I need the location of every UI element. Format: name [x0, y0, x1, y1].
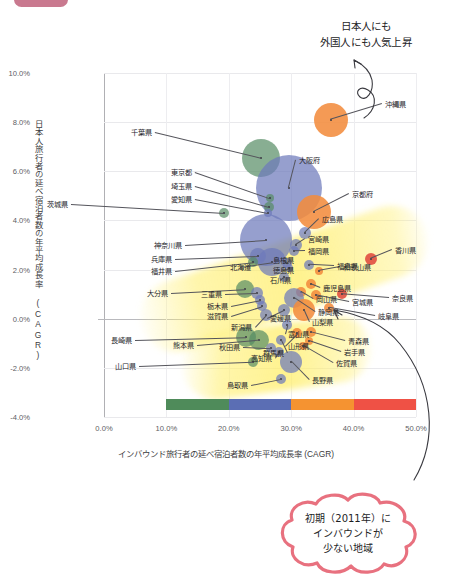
y-tick-label: 6.0% — [0, 167, 30, 176]
x-tick-label: 0.0% — [74, 424, 134, 433]
point-label-鹿児島県: 鹿児島県 — [323, 283, 351, 293]
point-label-北海道: 北海道 — [230, 262, 251, 272]
x-tick-label: 10.0% — [136, 424, 196, 433]
point-label-宮崎県: 宮崎県 — [308, 234, 329, 244]
annotation-cloud-text: 初期（2011年）に インバウンドが 少ない地域 — [272, 490, 424, 576]
bubble-chart-page: 日本人旅行者の延べ宿泊者数の年平均成長率 (CAGR) 10.0%8.0%6.0… — [0, 0, 452, 583]
y-tick-label: -4.0% — [0, 413, 30, 422]
scale-segment-blue — [229, 399, 292, 410]
annotation-top-line2: 外国人にも人気上昇 — [286, 34, 446, 50]
cloud-line-1: 初期（2011年）に — [305, 511, 390, 526]
gridline-horizontal — [104, 122, 416, 123]
point-label-高知県: 高知県 — [251, 353, 272, 363]
x-tick-label: 20.0% — [199, 424, 259, 433]
point-label-長崎県: 長崎県 — [111, 335, 132, 345]
point-label-栃木県: 栃木県 — [207, 301, 228, 311]
leader-line — [294, 250, 305, 251]
gridline-vertical — [229, 73, 230, 417]
point-label-新潟県: 新潟県 — [231, 322, 252, 332]
scale-segment-green — [166, 399, 229, 410]
point-label-滋賀県: 滋賀県 — [207, 311, 228, 321]
point-label-広島県: 広島県 — [322, 214, 343, 224]
point-label-神奈川県: 神奈川県 — [154, 240, 182, 250]
cloud-line-3: 少ない地域 — [323, 541, 373, 556]
corner-badge — [14, 0, 68, 7]
y-tick-label: 2.0% — [0, 265, 30, 274]
point-label-大阪府: 大阪府 — [299, 155, 320, 165]
point-label-秋田県: 秋田県 — [219, 342, 240, 352]
annotation-top-line1: 日本人にも — [341, 20, 391, 32]
point-label-島根県: 島根県 — [273, 255, 294, 265]
leader-line — [231, 306, 262, 317]
point-label-福岡県: 福岡県 — [308, 246, 329, 256]
point-label-京都府: 京都府 — [352, 189, 373, 199]
point-label-愛知県: 愛知県 — [171, 194, 192, 204]
point-label-茨城県: 茨城県 — [47, 199, 68, 209]
point-label-石川県: 石川県 — [270, 275, 291, 285]
y-tick-label: 10.0% — [0, 69, 30, 78]
point-label-千葉県: 千葉県 — [131, 127, 152, 137]
leader-line — [71, 204, 224, 214]
point-label-山口県: 山口県 — [115, 361, 136, 371]
point-label-香川県: 香川県 — [395, 245, 416, 255]
point-label-兵庫県: 兵庫県 — [151, 254, 172, 264]
point-label-奈良県: 奈良県 — [392, 293, 413, 303]
point-label-熊本県: 熊本県 — [173, 340, 194, 350]
leader-line — [139, 362, 253, 367]
point-label-東京都: 東京都 — [171, 167, 192, 177]
annotation-top-note: 日本人にも 外国人にも人気上昇 — [286, 18, 446, 51]
y-tick-label: 4.0% — [0, 216, 30, 225]
annotation-cloud-arrow — [288, 308, 448, 488]
cloud-line-2: インバウンドが — [313, 526, 383, 541]
annotation-top-arrow — [330, 52, 410, 120]
point-label-和歌山県: 和歌山県 — [343, 262, 371, 272]
point-label-宮城県: 宮城県 — [352, 297, 373, 307]
y-tick-label: -2.0% — [0, 363, 30, 372]
point-label-三重県: 三重県 — [201, 289, 222, 299]
point-label-福井県: 福井県 — [151, 266, 172, 276]
point-label-鳥取県: 鳥取県 — [227, 380, 248, 390]
y-axis-title: 日本人旅行者の延べ宿泊者数の年平均成長率 (CAGR) — [26, 120, 42, 361]
point-label-徳島県: 徳島県 — [273, 265, 294, 275]
y-tick-label: 0.0% — [0, 314, 30, 323]
annotation-cloud: 初期（2011年）に インバウンドが 少ない地域 — [272, 490, 424, 576]
point-label-大分県: 大分県 — [147, 288, 168, 298]
point-label-埼玉県: 埼玉県 — [171, 181, 192, 191]
leader-line — [175, 256, 258, 260]
point-label-岡山県: 岡山県 — [316, 294, 337, 304]
y-tick-label: 8.0% — [0, 118, 30, 127]
